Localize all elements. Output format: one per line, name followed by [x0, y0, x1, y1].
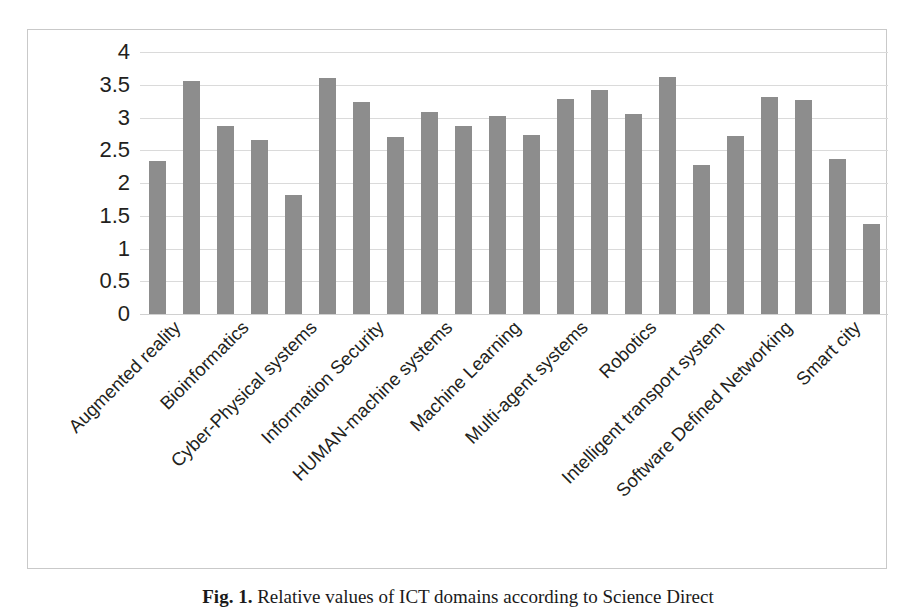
y-axis-tick-label: 2.5 [99, 139, 130, 161]
bar [319, 78, 336, 314]
x-axis-category-label: Information Security [258, 318, 387, 447]
gridline [140, 314, 888, 315]
bar [421, 112, 438, 314]
bar [795, 100, 812, 314]
bar [251, 140, 268, 314]
y-axis: 00.511.522.533.54 [58, 52, 136, 314]
bar [863, 224, 880, 314]
y-axis-tick-label: 3 [118, 107, 130, 129]
bar [149, 161, 166, 314]
bar [727, 136, 744, 314]
bar [489, 116, 506, 314]
plot-area [140, 52, 888, 314]
x-axis-category-label: Smart city [793, 318, 864, 389]
x-axis-category-label: Augmented reality [66, 318, 185, 437]
bar [353, 102, 370, 314]
bar [217, 126, 234, 314]
y-axis-tick-label: 2 [118, 172, 130, 194]
bar [625, 114, 642, 314]
bar [387, 137, 404, 314]
bar [285, 195, 302, 314]
bar [523, 135, 540, 314]
y-axis-tick-label: 0 [118, 303, 130, 325]
x-axis-labels: Augmented realityBioinformaticsCyber-Phy… [140, 318, 888, 548]
figure-frame: 00.511.522.533.54 Augmented realityBioin… [27, 29, 887, 569]
x-axis-category-label: Robotics [596, 318, 660, 382]
bar [455, 126, 472, 314]
y-axis-tick-label: 4 [118, 41, 130, 63]
bar [829, 159, 846, 314]
y-axis-tick-label: 1.5 [99, 205, 130, 227]
x-axis-category-label: Multi-agent systems [462, 318, 591, 447]
figure-caption-text: Relative values of ICT domains according… [257, 586, 714, 607]
bar [591, 90, 608, 314]
y-axis-tick-label: 0.5 [99, 270, 130, 292]
figure-number: Fig. 1. [202, 586, 252, 607]
y-axis-tick-label: 1 [118, 238, 130, 260]
y-axis-tick-label: 3.5 [99, 74, 130, 96]
bar [557, 99, 574, 314]
bar [659, 77, 676, 314]
bar-series [140, 52, 888, 314]
figure-caption: Fig. 1. Relative values of ICT domains a… [0, 586, 916, 608]
bar [183, 81, 200, 314]
bar [761, 97, 778, 314]
bar [693, 165, 710, 314]
